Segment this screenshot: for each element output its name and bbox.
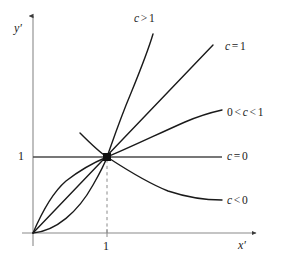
y-axis-label: y′ <box>14 22 22 34</box>
comparison-value: 1 <box>240 40 246 52</box>
comparison-value: 1 <box>149 12 155 24</box>
curve-c-greater-than-1 <box>33 34 153 233</box>
comparison-operator-left: < <box>233 106 243 118</box>
intersection-point-marker <box>103 153 111 161</box>
comparison-value: 0 <box>242 150 248 162</box>
comparison-value: 0 <box>242 194 248 206</box>
curve-label-c-greater-than-1: c>1 <box>134 13 155 25</box>
upper-bound: 1 <box>258 106 264 118</box>
x-tick-label-1: 1 <box>103 240 109 252</box>
power-function-plot-figure: y′ x′ 1 1 c>1 c=1 0<c<1 c=0 c<0 <box>0 0 292 262</box>
curve-c-less-than-0 <box>80 133 222 200</box>
curve-label-0-less-c-less-1: 0<c<1 <box>227 107 264 119</box>
comparison-operator: > <box>139 12 149 24</box>
curve-label-c-equals-0: c=0 <box>227 151 248 163</box>
comparison-operator: = <box>230 40 240 52</box>
comparison-operator: < <box>232 194 242 206</box>
curve-c-equals-1 <box>33 45 213 233</box>
x-axis-label: x′ <box>238 239 246 251</box>
comparison-operator: = <box>232 150 242 162</box>
curve-0-less-c-less-1 <box>33 110 222 233</box>
plot-canvas <box>0 0 292 262</box>
curve-label-c-equals-1: c=1 <box>225 41 246 53</box>
y-tick-label-1: 1 <box>18 150 24 162</box>
curve-label-c-less-than-0: c<0 <box>227 195 248 207</box>
axes-group <box>22 16 256 246</box>
comparison-operator-right: < <box>248 106 258 118</box>
